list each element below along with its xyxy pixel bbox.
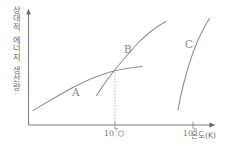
x-axis	[29, 123, 216, 128]
x-tick-1e7-marker-glyph	[118, 131, 123, 136]
curve-a-path	[33, 67, 142, 111]
y-axis-arrowhead	[26, 9, 31, 15]
x-tick-label-1e7-mantissa: 10	[104, 129, 114, 138]
curve-label-a: A	[71, 86, 80, 98]
chart-canvas: A B C 10 7 10 8 온도(K)	[0, 0, 247, 146]
x-axis-title: 온도(K)	[191, 131, 216, 140]
energy-production-chart: A B C 10 7 10 8 온도(K) 상대적 에너지 생산량	[0, 0, 247, 146]
x-tick-label-1e7: 10 7	[104, 127, 124, 138]
curve-label-c: C	[185, 38, 193, 50]
x-axis-arrowhead	[209, 123, 215, 128]
y-axis	[26, 9, 31, 126]
curve-b-path	[97, 22, 167, 96]
curve-c-path	[178, 19, 210, 111]
curve-label-b: B	[124, 43, 132, 55]
x-tick-label-1e7-exponent: 7	[115, 127, 119, 133]
